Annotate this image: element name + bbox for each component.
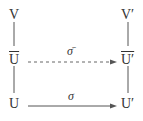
node-u-prime: U′	[121, 97, 134, 111]
arrowhead-sigma	[110, 104, 117, 109]
node-ubar-prime: U′	[121, 53, 134, 67]
node-v: V	[9, 8, 19, 22]
arrowhead-sigma-bar	[110, 60, 117, 65]
label-sigma: σ	[68, 90, 74, 102]
node-ubar: U	[9, 53, 19, 67]
label-sigma-bar: σ̄	[67, 45, 73, 57]
node-v-prime: V′	[121, 8, 134, 22]
node-u: U	[9, 97, 19, 111]
